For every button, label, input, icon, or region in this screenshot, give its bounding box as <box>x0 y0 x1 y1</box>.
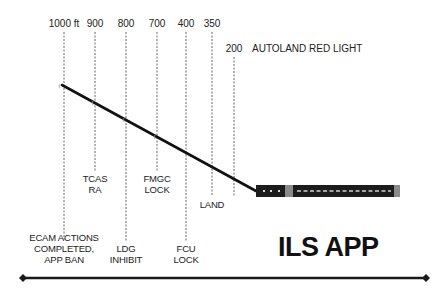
event-tcas-line1: TCAS <box>83 173 108 184</box>
event-fcu-lock: FCU LOCK <box>173 243 198 265</box>
event-ldg-line2: INHIBIT <box>110 254 142 265</box>
diamond-right-icon <box>422 274 430 282</box>
event-ecam-actions: ECAM ACTIONS COMPLETED, APP BAN <box>29 232 98 265</box>
altitude-label-1000: 1000 ft <box>49 18 80 30</box>
altitude-label-200: 200 <box>226 43 243 55</box>
altitude-label-700: 700 <box>149 18 166 30</box>
altitude-label-350: 350 <box>204 18 221 30</box>
autoland-red-light-label: AUTOLAND RED LIGHT <box>252 43 362 55</box>
runway <box>256 185 400 197</box>
diamond-left-icon <box>19 274 27 282</box>
event-ecam-line2: COMPLETED, <box>29 243 98 254</box>
event-ldg-line1: LDG <box>110 243 142 254</box>
runway-threshold <box>285 185 293 197</box>
altitude-label-400: 400 <box>178 18 195 30</box>
event-ldg-inhibit: LDG INHIBIT <box>110 243 142 265</box>
diagram-title: ILS APP <box>278 232 379 263</box>
altitude-dashed-lines <box>64 32 234 242</box>
event-fmgc-line1: FMGC <box>143 173 170 184</box>
event-land-line1: LAND <box>200 199 225 210</box>
event-fcu-line2: LOCK <box>173 254 198 265</box>
event-ecam-line1: ECAM ACTIONS <box>29 232 98 243</box>
event-tcas-ra: TCAS RA <box>83 173 108 195</box>
event-fmgc-line2: LOCK <box>143 184 170 195</box>
event-fcu-line1: FCU <box>173 243 198 254</box>
event-ecam-line3: APP BAN <box>29 254 98 265</box>
runway-end <box>394 185 400 197</box>
altitude-label-800: 800 <box>118 18 135 30</box>
event-land: LAND <box>200 199 225 210</box>
altitude-label-900: 900 <box>87 18 104 30</box>
event-tcas-line2: RA <box>83 184 108 195</box>
timeline-axis <box>19 274 430 282</box>
event-fmgc-lock: FMGC LOCK <box>143 173 170 195</box>
